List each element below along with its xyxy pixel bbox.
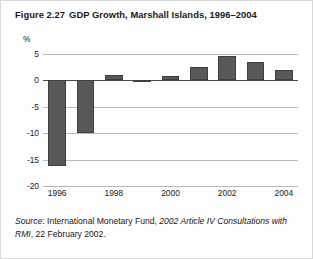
bar	[218, 56, 236, 80]
y-tick-label: -20	[13, 181, 39, 191]
y-axis-unit-label: %	[23, 34, 30, 44]
y-tick-label: 0	[13, 75, 39, 85]
x-tick-label: 1996	[48, 188, 67, 198]
source-note: Source: International Monetary Fund, 200…	[15, 215, 303, 240]
bar	[275, 70, 293, 81]
bars-series	[43, 54, 298, 186]
source-publisher: International Monetary Fund,	[47, 216, 159, 226]
bar	[162, 76, 180, 80]
bar	[77, 80, 95, 133]
x-tick-label: 1998	[105, 188, 124, 198]
figure-title-text: GDP Growth, Marshall Islands, 1996–2004	[69, 9, 257, 20]
y-tick-label: -15	[13, 155, 39, 165]
bar	[190, 67, 208, 81]
figure-container: Figure 2.27GDP Growth, Marshall Islands,…	[0, 0, 313, 259]
bar	[48, 80, 66, 166]
source-label: Source	[15, 216, 42, 226]
x-axis-tick-labels: 19961998200020022004	[43, 188, 298, 202]
y-tick-label: 5	[13, 49, 39, 59]
bar	[105, 75, 123, 81]
y-axis-tick-labels: 50-5-10-15-20	[9, 54, 39, 186]
x-tick-label: 2000	[161, 188, 180, 198]
x-tick-label: 2002	[218, 188, 237, 198]
plot-area	[43, 54, 298, 186]
figure-title: Figure 2.27GDP Growth, Marshall Islands,…	[15, 9, 305, 20]
x-tick-label: 2004	[275, 188, 294, 198]
y-tick-label: -10	[13, 128, 39, 138]
y-tick-label: -5	[13, 102, 39, 112]
gridline	[43, 186, 298, 187]
bar	[247, 62, 265, 80]
bar	[133, 80, 151, 82]
figure-number: Figure 2.27	[15, 9, 65, 20]
source-date: , 22 February 2002.	[31, 229, 106, 239]
